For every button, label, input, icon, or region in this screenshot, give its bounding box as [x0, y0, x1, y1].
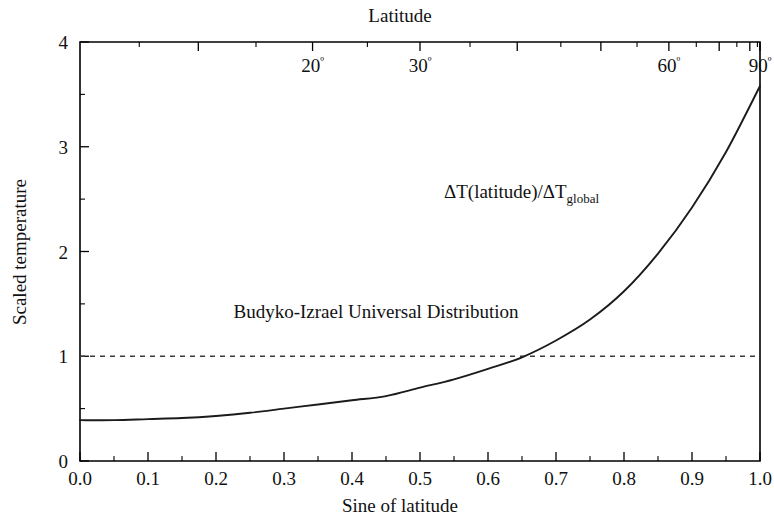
x-tick-label: 0.7 [544, 468, 568, 489]
x-axis-title: Sine of latitude [342, 495, 458, 516]
x-tick-label: 0.9 [680, 468, 704, 489]
x-tick-label: 0.5 [408, 468, 432, 489]
x-tick-label: 0.4 [340, 468, 364, 489]
distribution-annotation: Budyko-Izrael Universal Distribution [234, 301, 519, 322]
y-tick-label: 3 [59, 137, 69, 158]
y-axis-title: Scaled temperature [9, 179, 30, 325]
curve-annotation-subscript: global [567, 191, 600, 206]
x-tick-label: 0.6 [476, 468, 500, 489]
top-axis-title: Latitude [368, 5, 431, 26]
chart-figure: Latitude 20º30º60º90º 0.00.10.20.30.40.5… [0, 0, 774, 528]
x-tick-label: 1.0 [748, 468, 772, 489]
curve-annotation-prefix: ΔT(latitude)/ΔT [444, 181, 567, 203]
x-tick-label: 0.8 [612, 468, 636, 489]
y-tick-label: 2 [59, 242, 69, 263]
chart-background [0, 0, 774, 528]
y-tick-label: 1 [59, 346, 69, 367]
x-tick-label: 0.0 [68, 468, 92, 489]
x-tick-label: 0.3 [272, 468, 296, 489]
x-tick-label: 0.1 [136, 468, 160, 489]
chart-svg: Latitude 20º30º60º90º 0.00.10.20.30.40.5… [0, 0, 774, 528]
y-tick-label: 0 [59, 451, 69, 472]
y-tick-label: 4 [59, 32, 69, 53]
x-tick-label: 0.2 [204, 468, 228, 489]
